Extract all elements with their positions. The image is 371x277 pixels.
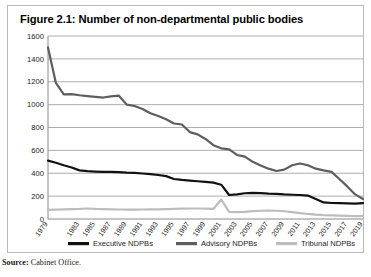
y-axis-tick-label: 1600 xyxy=(27,32,44,41)
source-note: Source: Cabinet Office. xyxy=(2,258,81,267)
x-axis-tick-label: 2007 xyxy=(254,220,271,238)
x-axis-tick-label: 1999 xyxy=(191,220,208,238)
x-axis-tick-label: 2019 xyxy=(348,220,365,238)
x-axis-tick-label: 2013 xyxy=(301,220,318,238)
x-axis-tick-label: 2015 xyxy=(317,220,334,238)
x-axis-tick: 2001 xyxy=(206,220,223,238)
x-axis-tick: 1993 xyxy=(143,220,160,238)
series-line-tribunal-ndpbs xyxy=(48,200,363,217)
x-axis-tick: 2015 xyxy=(317,220,334,238)
x-axis-tick: 1983 xyxy=(65,220,82,238)
x-axis-tick-label: 1983 xyxy=(65,220,82,238)
x-axis-tick: 2009 xyxy=(269,220,286,238)
legend-label: Executive NDPBs xyxy=(93,239,153,248)
x-axis-tick-label: 2011 xyxy=(285,220,301,238)
y-axis-tick-label: 1000 xyxy=(27,100,44,109)
x-axis-tick-label: 2005 xyxy=(238,220,255,238)
figure-container: Figure 2.1: Number of non-departmental p… xyxy=(7,5,364,253)
x-axis-tick: 2003 xyxy=(222,220,239,238)
legend-label: Tribunal NDPBs xyxy=(301,239,355,248)
x-axis-tick-label: 1997 xyxy=(175,220,192,238)
x-axis-tick-label: 1991 xyxy=(128,220,145,238)
line-chart: 0200400600800100012001400160019791983198… xyxy=(8,6,365,254)
x-axis-tick: 1987 xyxy=(96,220,113,238)
y-axis-tick-label: 200 xyxy=(31,192,44,201)
x-axis-tick: 2013 xyxy=(301,220,318,238)
x-axis-tick: 2007 xyxy=(254,220,271,238)
x-axis-tick-label: 1987 xyxy=(96,220,113,238)
x-axis-tick: 1997 xyxy=(175,220,192,238)
y-axis-tick-label: 1200 xyxy=(27,77,44,86)
x-axis-tick: 1999 xyxy=(191,220,208,238)
x-axis-tick: 2017 xyxy=(332,220,349,238)
x-axis-tick-label: 2009 xyxy=(269,220,286,238)
series-line-executive-ndpbs xyxy=(48,161,363,204)
source-value: Cabinet Office. xyxy=(31,258,81,267)
x-axis-tick-label: 2003 xyxy=(222,220,239,238)
y-axis-tick-label: 1400 xyxy=(27,55,44,64)
x-axis-tick: 1995 xyxy=(159,220,176,238)
x-axis-tick-label: 1989 xyxy=(112,220,129,238)
x-axis-tick: 1979 xyxy=(33,220,50,238)
x-axis-tick-label: 1993 xyxy=(143,220,160,238)
source-label: Source: xyxy=(2,258,29,267)
y-axis-tick-label: 800 xyxy=(31,123,44,132)
x-axis-tick: 1985 xyxy=(80,220,97,238)
x-axis-tick-label: 1985 xyxy=(80,220,97,238)
legend-label: Advisory NDPBs xyxy=(201,239,257,248)
x-axis-tick: 1991 xyxy=(128,220,145,238)
x-axis-tick: 1989 xyxy=(112,220,129,238)
x-axis-tick: 2019 xyxy=(348,220,365,238)
x-axis-tick-label: 1995 xyxy=(159,220,176,238)
x-axis-tick-label: 1979 xyxy=(33,220,50,238)
chart-plot-area: 0200400600800100012001400160019791983198… xyxy=(8,6,365,254)
x-axis-tick: 2011 xyxy=(285,220,301,238)
y-axis-tick-label: 400 xyxy=(31,169,44,178)
x-axis-tick-label: 2001 xyxy=(206,220,223,238)
chart-legend: Executive NDPBsAdvisory NDPBsTribunal ND… xyxy=(68,239,355,248)
y-axis-tick-label: 600 xyxy=(31,146,44,155)
x-axis-tick-label: 2017 xyxy=(332,220,349,238)
series-line-advisory-ndpbs xyxy=(48,47,363,199)
x-axis-tick: 2005 xyxy=(238,220,255,238)
